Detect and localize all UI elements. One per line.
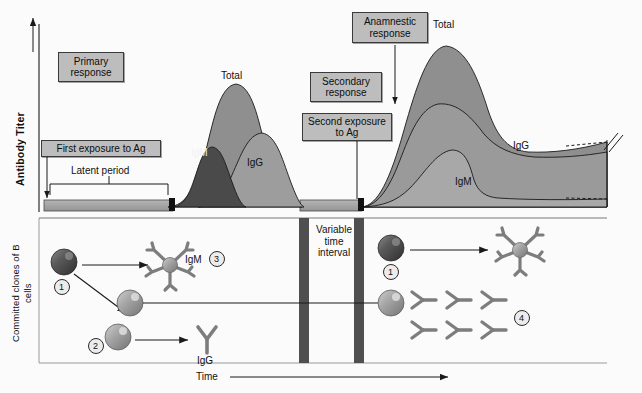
x-axis-label-time: Time	[196, 371, 218, 382]
step-marker-label-3-primary: 3	[214, 254, 219, 264]
y-axis-label-committed-clones: Committed clones of B cells	[10, 238, 34, 348]
igg-antibody-cluster	[412, 292, 506, 338]
b-cell-light-memory	[117, 290, 143, 316]
curve-label-primary-igm: IgM	[191, 147, 208, 158]
b-cell-dark-secondary	[378, 235, 404, 261]
curve-label-secondary-total: Total	[433, 19, 454, 30]
curve-label-secondary-igg: IgG	[513, 140, 529, 151]
step-marker-label-4-secondary: 4	[519, 313, 524, 323]
bottom-label-igm: IgM	[185, 254, 202, 265]
curve-label-primary-igg: IgG	[247, 157, 263, 168]
b-cell-light-secondary	[378, 290, 404, 316]
latent-period-bracket	[50, 176, 168, 195]
top-panel-axes	[33, 18, 39, 212]
step-marker-label-2-primary: 2	[93, 341, 98, 351]
label-variable-time-interval: Variable time interval	[310, 224, 358, 259]
figure-root: Antibody Titer Committed clones of B cel…	[0, 0, 642, 393]
b-cell-light-plasma	[105, 324, 131, 350]
curve-label-secondary-igm: IgM	[455, 176, 472, 187]
label-anamnestic-response: Anamnestic response	[352, 12, 428, 43]
primary-response-curves	[168, 84, 304, 207]
label-first-exposure-to-ag: First exposure to Ag	[41, 140, 161, 157]
label-second-exposure-to-ag: Second exposure to Ag	[302, 113, 392, 141]
primary-bcell-pathway	[51, 243, 390, 354]
curve-label-primary-total: Total	[221, 70, 242, 81]
label-secondary-response: Secondary response	[310, 72, 382, 102]
b-cell-dark-primary	[51, 249, 77, 275]
label-primary-response: Primary response	[58, 52, 124, 82]
step-marker-label-1-secondary: 1	[388, 267, 393, 277]
y-axis-label-antibody-titer: Antibody Titer	[14, 36, 26, 186]
step-marker-label-1-primary: 1	[59, 282, 64, 292]
igg-monomer-icon	[198, 327, 216, 353]
bottom-label-igg: IgG	[197, 355, 213, 366]
secondary-response-curves	[362, 46, 623, 207]
label-latent-period: Latent period	[71, 165, 129, 176]
